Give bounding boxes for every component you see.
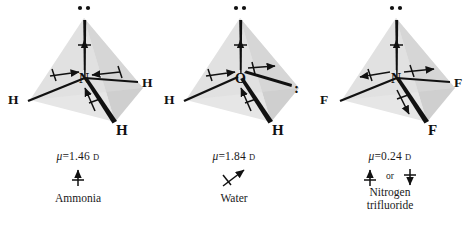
molecule-water: O H H : μ=1.84 D Water bbox=[156, 0, 312, 229]
mu-unit: D bbox=[405, 152, 411, 162]
net-dipole-arrow-diagonal-icon bbox=[214, 166, 254, 190]
atom-center-label: O bbox=[235, 71, 246, 86]
water-svg: O H H : bbox=[156, 0, 312, 146]
net-dipole-indicator bbox=[156, 166, 312, 188]
net-dipole-arrow-up-icon bbox=[63, 166, 93, 188]
atom-center-label: N bbox=[391, 71, 401, 86]
lone-pair-dots-icon bbox=[390, 6, 402, 10]
dipole-magnitude: μ=1.84 D bbox=[156, 150, 312, 162]
atom-outer-label-front: H bbox=[272, 122, 284, 138]
atom-outer-label-front: F bbox=[428, 122, 437, 138]
ammonia-structure: N H H H bbox=[0, 0, 156, 146]
net-dipole-arrow-up-icon bbox=[357, 166, 383, 188]
lone-pair-dots-icon bbox=[234, 6, 246, 10]
tetra-face-back bbox=[342, 18, 455, 100]
molecule-nitrogen-trifluoride: N F F F μ=0.24 D or Nitrogen trifluoride bbox=[312, 0, 468, 229]
dipole-magnitude: μ=1.46 D bbox=[0, 150, 156, 162]
atom-outer-label-right: F bbox=[454, 75, 462, 90]
water-structure: O H H : bbox=[156, 0, 312, 146]
molecule-ammonia: N H H H μ=1.46 D Ammonia bbox=[0, 0, 156, 229]
molecule-name: Nitrogen trifluoride bbox=[312, 186, 468, 211]
tetra-face-back bbox=[186, 18, 299, 100]
atom-outer-label-left: H bbox=[164, 92, 175, 107]
atom-outer-label-left: H bbox=[8, 92, 19, 107]
net-dipole-arrow-down-icon bbox=[397, 166, 423, 188]
net-dipole-indicator: or bbox=[312, 166, 468, 188]
atom-outer-label-left: F bbox=[320, 92, 328, 107]
mu-unit: D bbox=[93, 152, 99, 162]
dipole-moment-figure: N H H H μ=1.46 D Ammonia bbox=[0, 0, 468, 229]
mu-unit: D bbox=[249, 152, 255, 162]
molecule-name: Water bbox=[156, 192, 312, 205]
molecule-name: Ammonia bbox=[0, 192, 156, 205]
molecule-name-line-2: trifluoride bbox=[312, 199, 468, 212]
tetra-face-back bbox=[30, 18, 143, 100]
ammonia-svg: N H H H bbox=[0, 0, 156, 146]
mu-value: 0.24 bbox=[381, 150, 402, 162]
lone-pair-dots-icon bbox=[78, 6, 90, 10]
dipole-alternative-conjunction: or bbox=[383, 171, 397, 181]
molecule-name-line-1: Nitrogen bbox=[312, 186, 468, 199]
nitrogen-trifluoride-structure: N F F F bbox=[312, 0, 468, 146]
mu-value: 1.84 bbox=[225, 150, 246, 162]
lone-pair-colon-icon: : bbox=[294, 80, 299, 96]
net-dipole-indicator bbox=[0, 166, 156, 188]
dipole-magnitude: μ=0.24 D bbox=[312, 150, 468, 162]
mu-value: 1.46 bbox=[69, 150, 90, 162]
atom-outer-label-front: H bbox=[116, 122, 128, 138]
nitrogen-trifluoride-svg: N F F F bbox=[312, 0, 468, 146]
atom-outer-label-right: H bbox=[142, 75, 153, 90]
atom-center-label: N bbox=[79, 71, 89, 86]
